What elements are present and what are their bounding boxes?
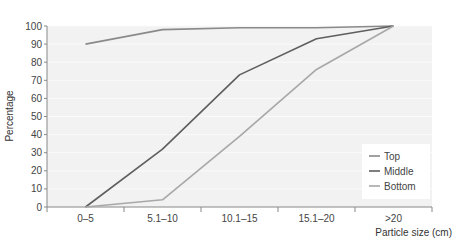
x-tick-label: 15.1–20	[298, 213, 335, 224]
x-tick-label: 10.1–15	[221, 213, 258, 224]
y-tick-label: 70	[31, 75, 43, 86]
y-tick-label: 0	[36, 202, 42, 213]
legend-label-middle: Middle	[384, 166, 414, 177]
y-tick-label: 90	[31, 39, 43, 50]
y-axis-title: Percentage	[4, 90, 15, 142]
line-chart: 0102030405060708090100 0–55.1–1010.1–151…	[0, 0, 453, 241]
legend-label-bottom: Bottom	[384, 181, 416, 192]
y-tick-label: 60	[31, 93, 43, 104]
legend-label-top: Top	[384, 151, 401, 162]
y-tick-label: 30	[31, 147, 43, 158]
y-tick-label: 100	[25, 21, 42, 32]
y-tick-label: 80	[31, 57, 43, 68]
x-tick-label: 0–5	[77, 213, 94, 224]
x-axis-title: Particle size (cm)	[375, 227, 452, 238]
x-tick-label: >20	[385, 213, 402, 224]
x-axis-ticks: 0–55.1–1010.1–1515.1–20>20	[47, 207, 432, 224]
y-tick-label: 10	[31, 183, 43, 194]
y-axis-ticks: 0102030405060708090100	[25, 21, 47, 213]
x-tick-label: 5.1–10	[147, 213, 178, 224]
y-tick-label: 40	[31, 129, 43, 140]
y-tick-label: 20	[31, 165, 43, 176]
y-tick-label: 50	[31, 111, 43, 122]
legend: TopMiddleBottom	[362, 144, 430, 199]
